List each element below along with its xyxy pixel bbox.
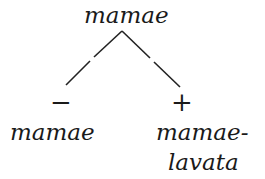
right-edge-upper xyxy=(122,31,150,58)
left-child-label: mamae xyxy=(10,121,95,144)
left-edge-upper xyxy=(94,31,122,57)
left-child-sign: − xyxy=(50,89,72,115)
right-child-label-line2: lavata xyxy=(168,151,239,174)
root-node-label: mamae xyxy=(84,4,169,27)
right-child-label-line1: mamae- xyxy=(156,121,248,144)
right-child-sign: + xyxy=(171,89,193,115)
left-edge-lower xyxy=(66,61,90,85)
right-edge-lower xyxy=(154,62,180,87)
